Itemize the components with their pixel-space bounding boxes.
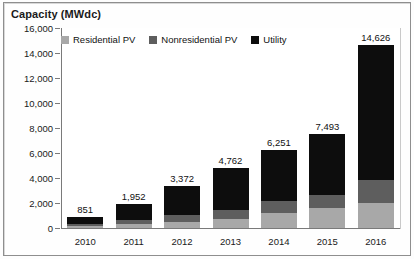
bar-value-label: 851 (77, 204, 93, 215)
y-axis-tick-label: 12,000 (7, 73, 53, 84)
x-axis-tick-label-2013: 2013 (220, 236, 241, 247)
bar-segment-nonresidential (116, 220, 152, 224)
bar-segment-utility (261, 150, 297, 201)
bar-segment-nonresidential (261, 201, 297, 213)
bar-segment-residential (116, 224, 152, 228)
y-axis-tick-mark (55, 53, 60, 54)
bar-segment-nonresidential (67, 224, 103, 226)
bar-value-label: 14,626 (361, 32, 390, 43)
bar-segment-utility (309, 134, 345, 195)
y-axis-tick-label: 16,000 (7, 23, 53, 34)
y-axis-tick-label: 8,000 (7, 123, 53, 134)
y-axis-tick-label: 2,000 (7, 198, 53, 209)
bar-2010 (67, 28, 103, 228)
y-axis-tick-mark (55, 28, 60, 29)
bar-value-label: 6,251 (267, 137, 291, 148)
bar-value-label: 3,372 (170, 173, 194, 184)
bar-value-label: 4,762 (219, 155, 243, 166)
x-axis-tick-label-2012: 2012 (171, 236, 192, 247)
y-axis-tick-label: 6,000 (7, 148, 53, 159)
plot-right-edge (400, 28, 401, 229)
y-axis-tick-label: 0 (7, 223, 53, 234)
bar-segment-utility (164, 186, 200, 215)
y-axis-tick-mark (55, 78, 60, 79)
y-axis-tick-label: 4,000 (7, 173, 53, 184)
y-axis-tick-mark (55, 178, 60, 179)
x-axis-tick-label-2011: 2011 (123, 236, 143, 247)
bar-segment-nonresidential (164, 215, 200, 222)
y-axis-tick-label: 10,000 (7, 98, 53, 109)
bar-2016 (358, 28, 394, 228)
bar-value-label: 7,493 (315, 121, 339, 132)
y-axis-tick-mark (55, 203, 60, 204)
bar-segment-residential (213, 219, 249, 228)
y-axis: 02,0004,0006,0008,00010,00012,00014,0001… (0, 0, 53, 259)
bar-2014 (261, 28, 297, 228)
x-axis-tick-label-2016: 2016 (365, 236, 386, 247)
y-axis-tick-mark (55, 228, 60, 229)
x-axis-tick-label-2014: 2014 (268, 236, 289, 247)
bar-segment-nonresidential (213, 210, 249, 219)
y-axis-tick-mark (55, 128, 60, 129)
bar-segment-utility (116, 204, 152, 221)
bar-segment-residential (358, 203, 394, 228)
bar-segment-nonresidential (358, 180, 394, 203)
y-axis-tick-label: 14,000 (7, 48, 53, 59)
x-axis-tick-label-2010: 2010 (75, 236, 96, 247)
y-axis-tick-mark (55, 153, 60, 154)
bar-value-label: 1,952 (122, 191, 146, 202)
bar-segment-utility (358, 45, 394, 180)
bar-segment-residential (261, 213, 297, 228)
y-axis-tick-mark (55, 103, 60, 104)
bar-segment-utility (67, 217, 103, 223)
bar-segment-residential (67, 226, 103, 228)
bar-segment-residential (164, 222, 200, 228)
bar-2013 (213, 28, 249, 228)
legend-swatch-icon (251, 36, 259, 44)
bar-segment-nonresidential (309, 195, 345, 208)
bar-2012 (164, 28, 200, 228)
x-axis-tick-label-2015: 2015 (317, 236, 338, 247)
chart-figure: Capacity (MWdc) 02,0004,0006,0008,00010,… (0, 0, 414, 259)
bar-segment-utility (213, 168, 249, 209)
bar-segment-residential (309, 208, 345, 228)
